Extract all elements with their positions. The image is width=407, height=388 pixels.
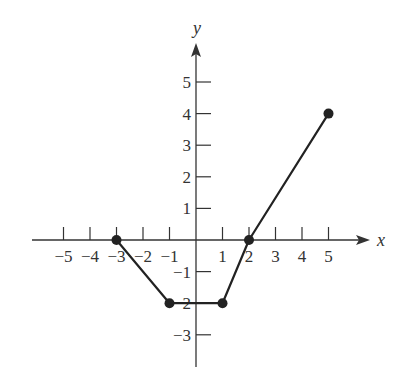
series-line — [117, 114, 329, 304]
y-tick-label: 2 — [183, 168, 192, 187]
data-series — [112, 109, 334, 309]
data-point-marker — [112, 235, 122, 245]
data-point-marker — [165, 298, 175, 308]
data-point-marker — [244, 235, 254, 245]
y-tick-label: −3 — [173, 326, 191, 345]
data-point-marker — [218, 298, 228, 308]
x-tick-label: −3 — [107, 247, 125, 266]
y-tick-label: 5 — [183, 73, 192, 92]
data-point-marker — [324, 109, 334, 119]
x-tick-label: 3 — [271, 247, 280, 266]
x-tick-label: 5 — [324, 247, 333, 266]
y-tick-label: 3 — [183, 136, 192, 155]
piecewise-linear-graph: −5−4−3−2−112345−3−2−112345 x y — [0, 0, 407, 388]
x-tick-label: 1 — [218, 247, 227, 266]
x-axis-label: x — [376, 230, 385, 250]
y-tick-label: 4 — [183, 105, 192, 124]
x-tick-label: −4 — [81, 247, 100, 266]
x-tick-label: −5 — [54, 247, 72, 266]
y-tick-label: 1 — [183, 199, 192, 218]
y-axis-label: y — [191, 18, 201, 38]
x-tick-label: 4 — [298, 247, 307, 266]
y-tick-label: −1 — [173, 263, 191, 282]
axes — [32, 43, 370, 367]
